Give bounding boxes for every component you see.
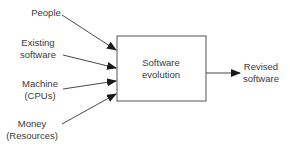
input-label-line1: Machine <box>18 78 62 90</box>
process-label: Software evolution <box>131 57 191 81</box>
output-label-line2: software <box>238 73 284 85</box>
input-label-line2: (CPUs) <box>18 90 62 102</box>
arrow-money <box>62 94 116 124</box>
input-label-existing-software: Existing software <box>16 37 60 61</box>
input-label-line1: People <box>26 7 66 19</box>
arrow-people <box>62 15 116 50</box>
output-label-line1: Revised <box>238 61 284 73</box>
input-label-line1: Existing <box>16 37 60 49</box>
process-label-line2: evolution <box>131 69 191 81</box>
input-label-people: People <box>26 7 66 19</box>
arrow-existing-software <box>63 55 116 68</box>
input-label-line2: (Resources) <box>4 130 60 142</box>
input-label-line1: Money <box>4 118 60 130</box>
process-label-line1: Software <box>131 57 191 69</box>
output-label: Revised software <box>238 61 284 85</box>
input-label-line2: software <box>16 49 60 61</box>
input-label-money: Money (Resources) <box>4 118 60 142</box>
arrow-machine <box>63 81 116 89</box>
input-label-machine: Machine (CPUs) <box>18 78 62 102</box>
